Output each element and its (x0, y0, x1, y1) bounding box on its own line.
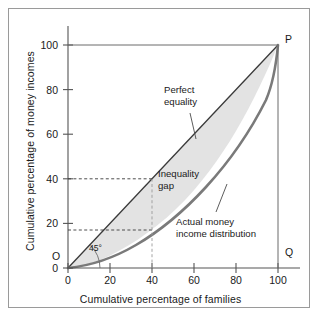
x-tick-label-80: 80 (222, 274, 250, 286)
angle-label-45: 45° (89, 243, 102, 253)
point-label-p: P (285, 33, 292, 45)
y-axis-title: Cumulative percentage of money incomes (24, 26, 36, 276)
x-tick-label-100: 100 (264, 274, 292, 286)
x-tick-label-0: 0 (54, 274, 82, 286)
point-label-q: Q (285, 246, 293, 258)
annotation-actual-money-income: Actual money income distribution (176, 216, 256, 239)
x-axis-title: Cumulative percentage of families (0, 293, 321, 305)
x-tick-label-40: 40 (138, 274, 166, 286)
point-label-o: O (52, 250, 60, 262)
leader-line-actual-money (216, 184, 227, 212)
annotation-perfect-equality: Perfect equality (164, 84, 197, 107)
x-tick-label-60: 60 (180, 274, 208, 286)
annotation-inequality-gap: Inequality gap (158, 168, 199, 191)
x-tick-label-20: 20 (96, 274, 124, 286)
lorenz-curve-figure: 100 80 60 40 20 0 0 20 40 60 80 100 Cumu… (0, 0, 321, 317)
